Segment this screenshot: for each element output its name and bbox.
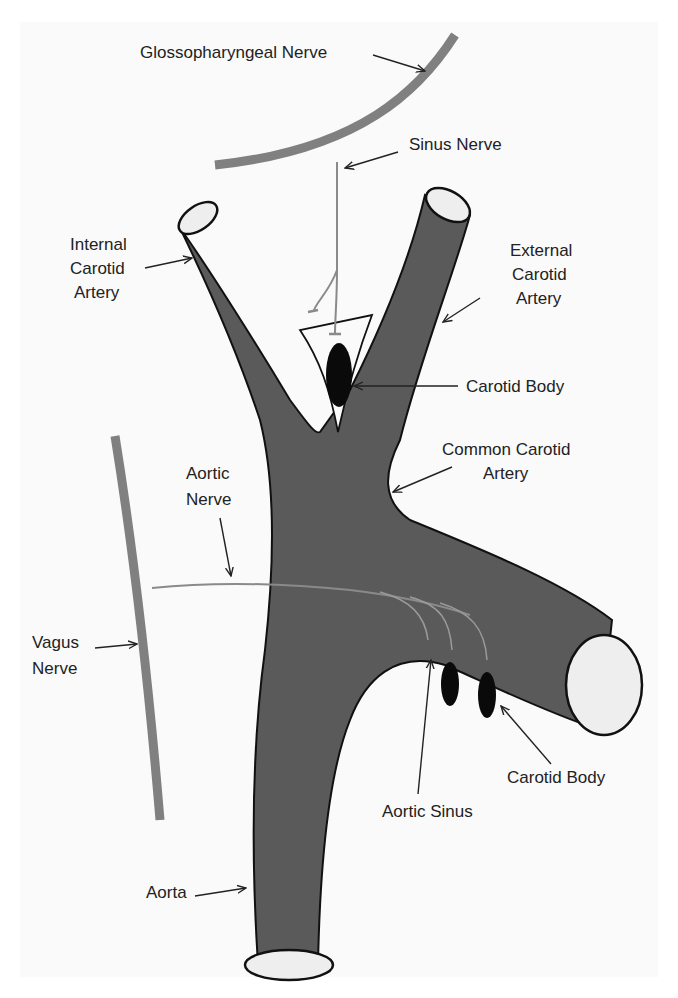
arrow-vagus-nerve [95, 644, 137, 648]
label-external-carotid-2: Carotid [512, 265, 567, 284]
label-internal-carotid-3: Artery [74, 283, 120, 302]
vagus-nerve [115, 436, 160, 820]
label-glossopharyngeal: Glossopharyngeal Nerve [140, 43, 327, 62]
aortic-body-left [441, 662, 459, 706]
label-aortic-sinus: Aortic Sinus [382, 802, 473, 821]
arrow-internal-carotid [145, 258, 192, 268]
label-sinus-nerve: Sinus Nerve [409, 135, 502, 154]
internal-carotid-opening [173, 196, 223, 241]
carotid-body-upper [326, 343, 352, 407]
arrow-glossopharyngeal [373, 55, 425, 71]
vessel-body [180, 195, 612, 965]
arrow-carotid-body-lower [501, 706, 551, 764]
carotid-body-lower [478, 672, 496, 718]
arrow-aorta [195, 888, 246, 896]
diagram-page: Glossopharyngeal Nerve Sinus Nerve Inter… [0, 0, 678, 998]
arrow-aortic-nerve [220, 518, 231, 576]
label-carotid-body-upper: Carotid Body [466, 377, 565, 396]
label-carotid-body-lower: Carotid Body [507, 768, 606, 787]
label-internal-carotid-1: Internal [70, 235, 127, 254]
label-vagus-nerve-2: Nerve [32, 659, 77, 678]
label-common-carotid-2: Artery [483, 464, 529, 483]
label-aortic-nerve-1: Aortic [186, 464, 230, 483]
label-external-carotid-1: External [510, 241, 572, 260]
arrow-sinus-nerve [345, 152, 398, 168]
arrow-aortic-sinus [418, 660, 431, 794]
label-external-carotid-3: Artery [516, 289, 562, 308]
label-vagus-nerve-1: Vagus [32, 633, 79, 652]
label-common-carotid-1: Common Carotid [442, 440, 571, 459]
label-aortic-nerve-2: Nerve [186, 490, 231, 509]
aortic-arch-opening [566, 635, 642, 735]
arrow-common-carotid [393, 467, 452, 492]
carotid-aortic-diagram: Glossopharyngeal Nerve Sinus Nerve Inter… [0, 0, 678, 998]
label-aorta: Aorta [146, 883, 187, 902]
label-internal-carotid-2: Carotid [70, 259, 125, 278]
arrow-external-carotid [443, 298, 480, 322]
aorta-opening [245, 950, 333, 980]
